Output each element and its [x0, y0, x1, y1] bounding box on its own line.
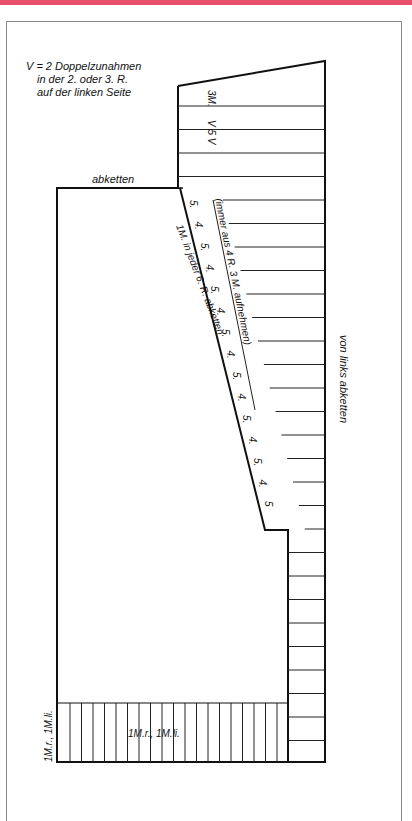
slope-count: 5. — [199, 243, 210, 251]
slope-count: 4. — [225, 351, 236, 359]
increase-marker-label: V 5 V — [206, 120, 217, 146]
rib-side-label: 1M.r., 1M.li. — [43, 710, 54, 762]
slope-count: 5. — [231, 372, 242, 380]
slope-count: 5. — [220, 329, 231, 337]
slope-count: 4. — [257, 480, 268, 488]
slope-count: 4. — [215, 308, 226, 316]
slope-count: 4. — [193, 222, 204, 230]
note-line-3: auf der linken Seite — [37, 86, 131, 98]
slope-count: 5. — [241, 415, 252, 423]
cast-off-label: abketten — [92, 173, 134, 185]
decrease-note-label: 1M. in jeder 6. R. abketten — [174, 223, 226, 337]
top-stitches-label: 3M. — [206, 90, 217, 107]
slope-count: 5. — [252, 458, 263, 466]
right-side-label: von links abketten — [338, 335, 350, 423]
note-line-1: V = 2 Doppelzunahmen — [26, 60, 141, 72]
slope-count: 4. — [247, 437, 258, 445]
note-line-2: in der 2. oder 3. R. — [37, 73, 128, 85]
rib-center-label: 1M.r., 1M.li. — [128, 728, 180, 739]
slope-count: 4. — [236, 394, 247, 402]
slope-count: 5. — [188, 200, 199, 208]
slope-count: 5 — [263, 501, 274, 507]
slope-count: 4. — [204, 265, 215, 273]
slope-count: 5. — [209, 286, 220, 294]
